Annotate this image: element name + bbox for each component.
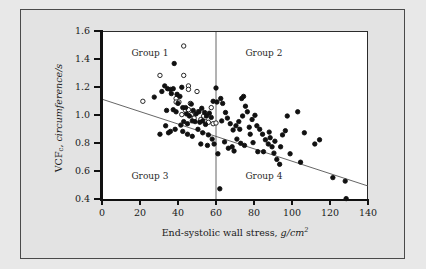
data-point xyxy=(222,140,226,144)
y-tick-label: 1.4 xyxy=(62,54,90,64)
data-point xyxy=(212,142,216,146)
quadrant-label-group-3: Group 3 xyxy=(131,171,168,181)
data-point xyxy=(189,102,193,106)
data-point xyxy=(280,133,284,137)
x-tick xyxy=(101,199,102,205)
y-axis-title-prefix: VCF xyxy=(53,152,64,173)
data-point xyxy=(158,73,162,77)
x-tick-label: 120 xyxy=(315,208,345,218)
data-point xyxy=(270,145,274,149)
data-point xyxy=(240,114,244,118)
data-point xyxy=(302,131,306,135)
data-point xyxy=(176,101,180,105)
data-point xyxy=(185,132,189,136)
data-point xyxy=(214,86,218,90)
data-point xyxy=(253,113,257,117)
y-tick-label: 1.0 xyxy=(62,110,90,120)
data-point xyxy=(243,104,247,108)
data-point xyxy=(214,121,218,125)
chart-container: Group 1 Group 2 Group 3 Group 4 0.40.60.… xyxy=(0,0,426,269)
quadrant-label-group-1: Group 1 xyxy=(131,48,168,58)
data-point xyxy=(206,133,210,137)
data-point xyxy=(209,105,213,109)
data-point xyxy=(203,122,207,126)
data-point xyxy=(196,127,200,131)
x-tick xyxy=(139,199,140,205)
data-point xyxy=(169,91,173,95)
data-point xyxy=(163,84,167,88)
data-point xyxy=(209,115,213,119)
x-tick-label: 60 xyxy=(201,208,231,218)
data-point xyxy=(256,150,260,154)
data-point xyxy=(172,61,176,65)
y-axis-title-subscript: c xyxy=(57,148,65,152)
data-point xyxy=(225,116,229,120)
data-point xyxy=(173,127,177,131)
data-point xyxy=(248,132,252,136)
data-point xyxy=(237,119,241,123)
y-axis-title: VCFc, circumference/s xyxy=(53,33,65,203)
data-point xyxy=(226,146,230,150)
data-point xyxy=(241,94,245,98)
y-axis-title-rest: , circumference/s xyxy=(53,64,64,148)
data-point xyxy=(220,101,224,105)
plot-area: Group 1 Group 2 Group 3 Group 4 xyxy=(102,31,368,199)
data-point xyxy=(263,138,267,142)
data-point xyxy=(296,110,300,114)
data-point xyxy=(298,160,302,164)
y-tick xyxy=(94,30,100,31)
data-point xyxy=(201,131,205,135)
data-point xyxy=(317,138,321,142)
data-point xyxy=(275,157,279,161)
data-point xyxy=(231,128,235,132)
data-point xyxy=(267,130,271,134)
data-point xyxy=(210,137,214,141)
data-point xyxy=(219,96,223,100)
x-tick xyxy=(367,199,368,205)
data-point xyxy=(174,110,178,114)
x-axis-title-exponent: 2 xyxy=(304,226,308,234)
x-tick xyxy=(253,199,254,205)
data-point xyxy=(179,123,183,127)
figure-background: Group 1 Group 2 Group 3 Group 4 0.40.60.… xyxy=(0,0,426,269)
data-point xyxy=(180,85,184,89)
data-point xyxy=(250,117,254,121)
data-point xyxy=(260,132,264,136)
data-point xyxy=(242,143,246,147)
data-point xyxy=(277,162,281,166)
y-tick-label: 1.2 xyxy=(62,82,90,92)
data-point xyxy=(220,119,224,123)
x-tick-label: 80 xyxy=(239,208,269,218)
y-tick-label: 0.6 xyxy=(62,166,90,176)
data-point xyxy=(182,44,186,48)
data-point xyxy=(182,73,186,77)
data-point xyxy=(288,152,292,156)
x-tick xyxy=(329,199,330,205)
x-axis-title: End-systolic wall stress, g/cm2 xyxy=(102,226,368,238)
y-tick-label: 1.6 xyxy=(62,26,90,36)
data-point xyxy=(251,140,255,144)
x-tick xyxy=(291,199,292,205)
data-point xyxy=(180,112,184,116)
data-point xyxy=(235,137,239,141)
y-tick-label: 0.8 xyxy=(62,138,90,148)
data-point xyxy=(223,110,227,114)
data-point xyxy=(261,150,265,154)
x-tick-label: 100 xyxy=(277,208,307,218)
data-point xyxy=(216,152,220,156)
data-point xyxy=(272,151,276,155)
data-point xyxy=(234,124,238,128)
x-tick xyxy=(177,199,178,205)
data-point xyxy=(232,149,236,153)
data-point xyxy=(158,132,162,136)
y-tick xyxy=(94,58,100,59)
data-point xyxy=(200,106,204,110)
x-axis-title-text: End-systolic wall stress, xyxy=(162,227,278,238)
data-point xyxy=(178,94,182,98)
data-point xyxy=(141,99,145,103)
data-point xyxy=(331,175,335,179)
y-axis-line xyxy=(100,30,103,201)
data-point xyxy=(186,87,190,91)
data-point xyxy=(247,125,251,129)
data-point xyxy=(215,100,219,104)
